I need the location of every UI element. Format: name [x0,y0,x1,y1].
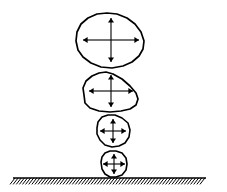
particle-fragmentation-diagram [0,0,227,192]
particle-1 [76,13,144,68]
figure-container [0,0,227,192]
particles-group [76,13,144,177]
particle-4 [101,151,127,177]
particle-3 [97,115,130,147]
particle-2 [83,72,138,112]
ground-hatching [10,178,205,184]
ground-group [10,178,206,184]
